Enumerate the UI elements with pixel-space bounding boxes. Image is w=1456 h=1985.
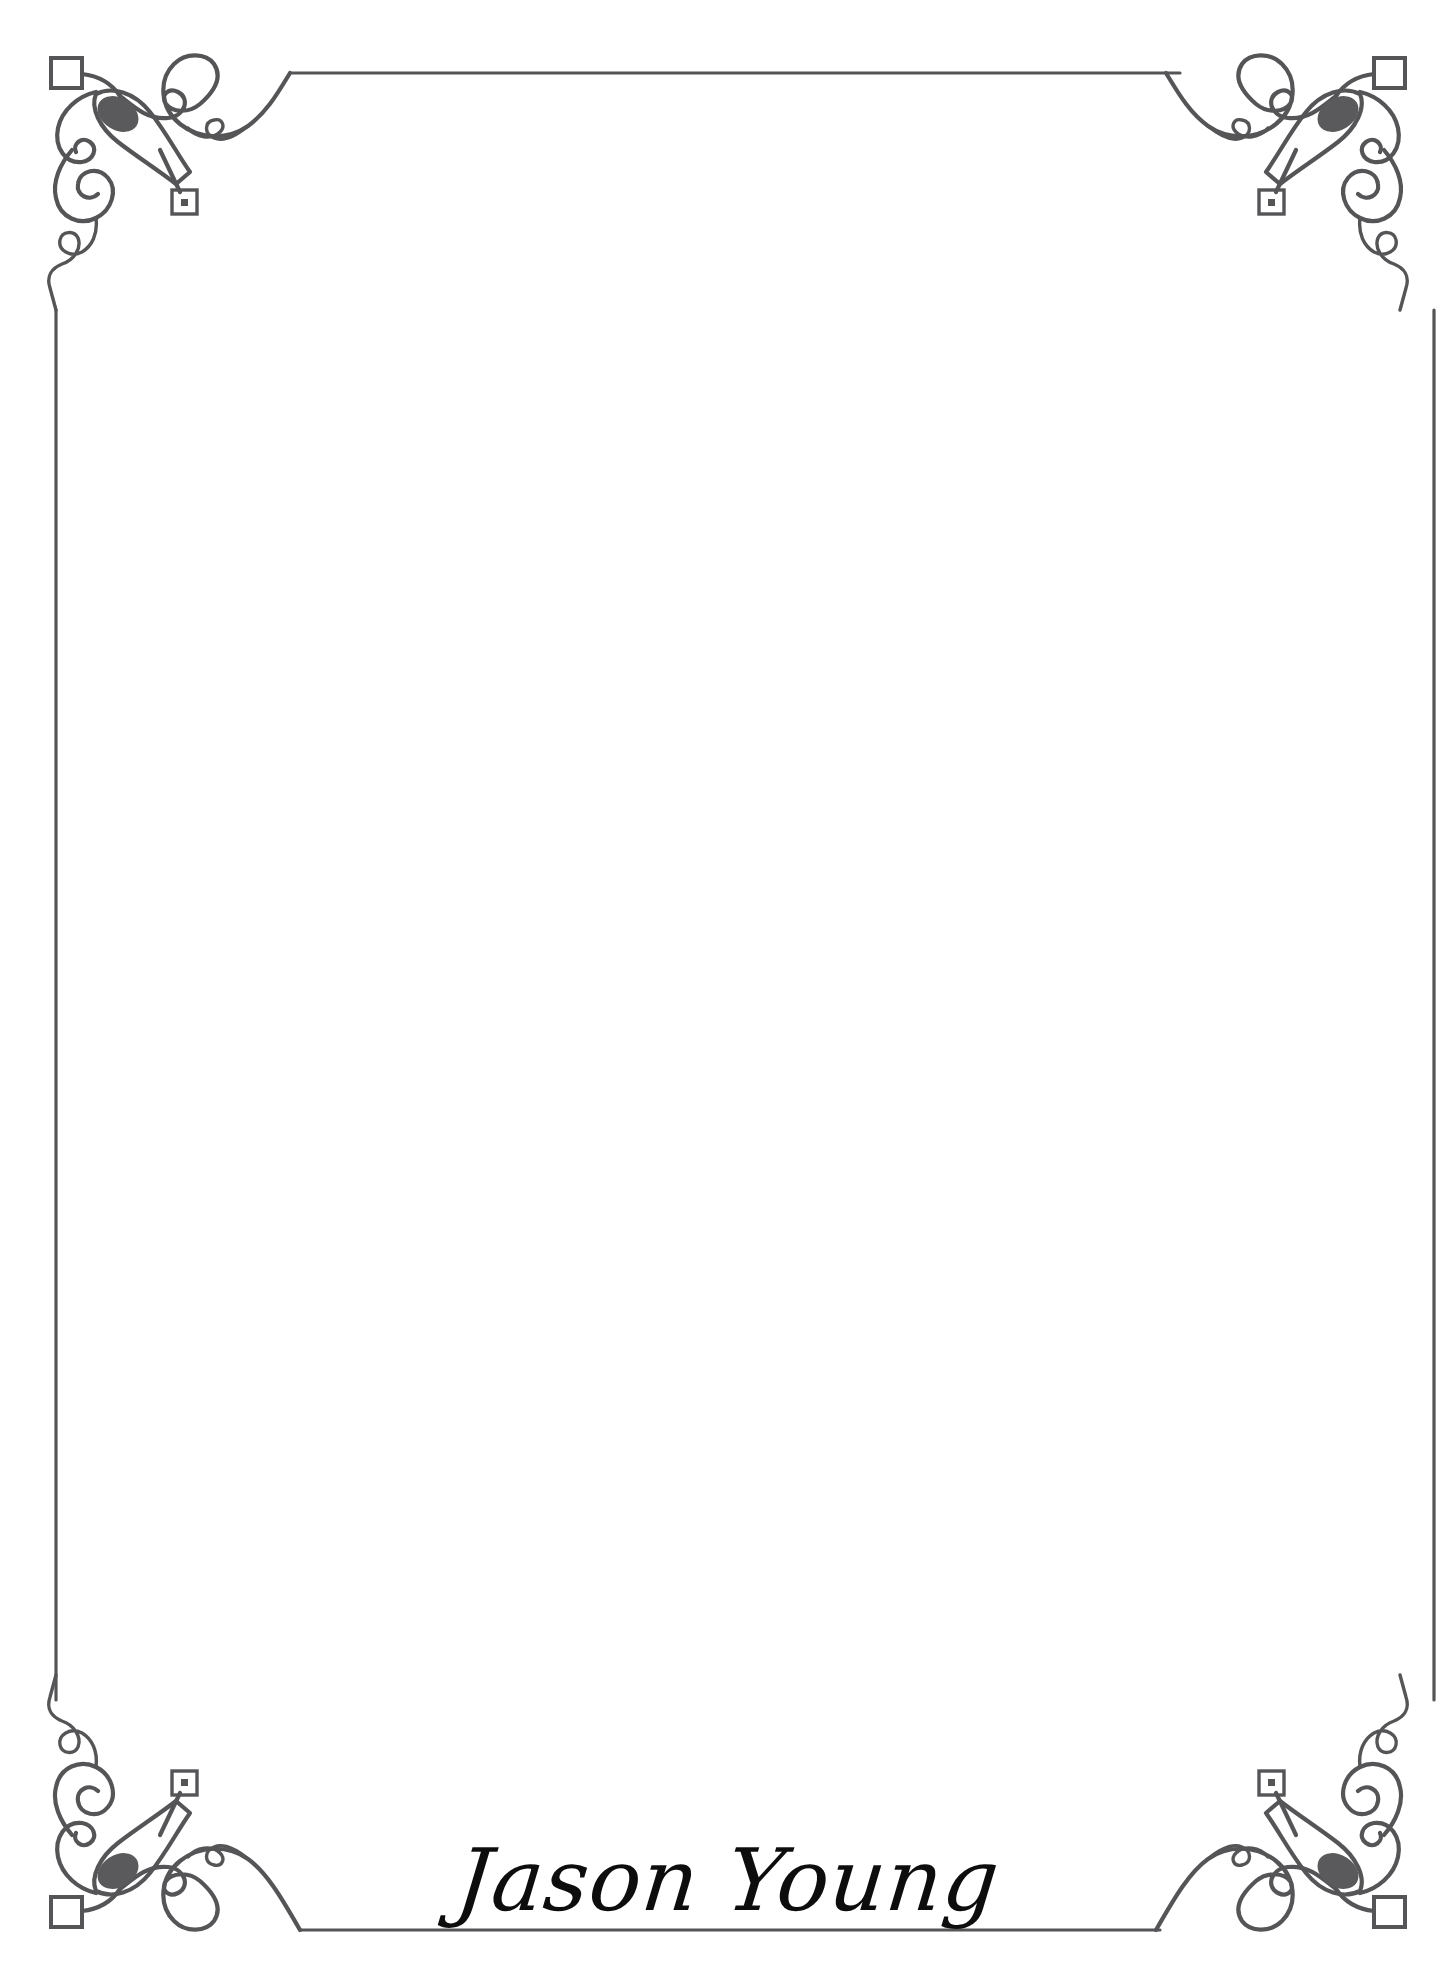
- corner-square-dot-bl: [181, 1779, 188, 1786]
- corner-ornament-bottom-left: [49, 1675, 300, 1930]
- corner-ornament-bottom-right: [1156, 1675, 1407, 1930]
- corner-square-outer-br: [1374, 1897, 1405, 1927]
- scroll-bl-bottom-spiral: [120, 1849, 300, 1930]
- document-content-area[interactable]: [56, 73, 1434, 1713]
- scroll-br-square-stem: [1276, 1793, 1296, 1835]
- scroll-br-bottom-spiral: [1156, 1849, 1336, 1930]
- scroll-bl-square-stem: [160, 1793, 180, 1835]
- signature-name: Jason Young: [452, 1837, 1003, 1923]
- scroll-br-leaf-stem: [1360, 1823, 1399, 1893]
- scroll-bl-leaf-stem: [57, 1823, 96, 1893]
- corner-square-outer-bl: [51, 1897, 82, 1927]
- corner-square-dot-br: [1268, 1779, 1275, 1786]
- stationery-page: Jason Young: [0, 0, 1456, 1985]
